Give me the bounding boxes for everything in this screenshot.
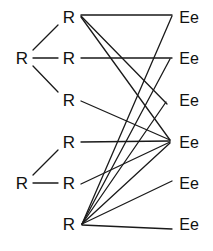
- ee-node-e4: Ee: [179, 134, 199, 151]
- tree-root-node-lbot: R: [16, 175, 28, 192]
- r-node-r2: R: [63, 50, 75, 67]
- tree-edge-ltop-to-r1: [33, 25, 58, 50]
- mapping-edge-r6-to-e4: [82, 143, 170, 224]
- ee-node-e1: Ee: [179, 9, 199, 26]
- ee-node-e5: Ee: [179, 175, 199, 192]
- r-node-r6: R: [63, 216, 75, 233]
- tree-root-node-ltop: R: [16, 50, 28, 67]
- r-node-r3: R: [63, 92, 75, 109]
- ee-node-e3: Ee: [179, 92, 199, 109]
- tree-edge-ltop-to-r3: [33, 66, 58, 92]
- diagram-edges-canvas: [0, 0, 213, 251]
- mapping-edge-r1-to-e4: [81, 17, 170, 140]
- tree-edge-lbot-to-r4: [33, 150, 58, 175]
- r-node-r1: R: [63, 9, 75, 26]
- bipartite-diagram: RRRRRRRREeEeEeEeEeEe: [0, 0, 213, 251]
- mapping-edge-r6-to-e1: [82, 16, 172, 224]
- tree-edge-group: [33, 25, 58, 183]
- ee-node-e2: Ee: [179, 50, 199, 67]
- r-node-r4: R: [63, 134, 75, 151]
- mapping-edge-r6-to-e6: [82, 225, 172, 229]
- mapping-edge-group: [81, 15, 172, 229]
- mapping-edge-r6-to-e5: [82, 181, 172, 224]
- ee-node-e6: Ee: [179, 216, 199, 233]
- mapping-edge-r1-to-e3: [81, 16, 167, 104]
- mapping-edge-r5-to-e4: [81, 142, 170, 184]
- r-node-r5: R: [63, 175, 75, 192]
